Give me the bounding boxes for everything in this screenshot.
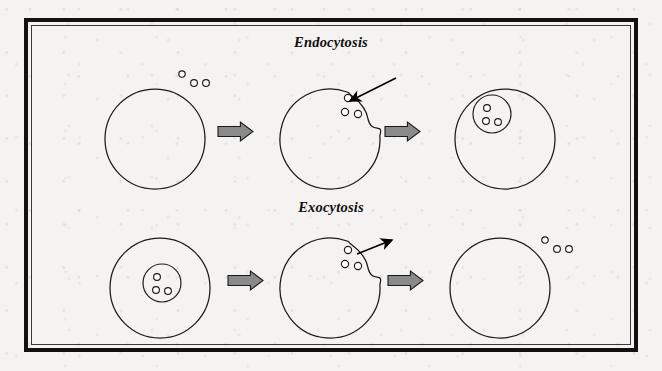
row-title-exocytosis: Exocytosis: [298, 199, 364, 216]
diagram-border-inner: [31, 25, 631, 345]
figure-root: Endocytosis Exocytosis: [0, 0, 662, 371]
row-title-endocytosis: Endocytosis: [294, 34, 368, 51]
diagram-border-frame: [24, 18, 638, 352]
